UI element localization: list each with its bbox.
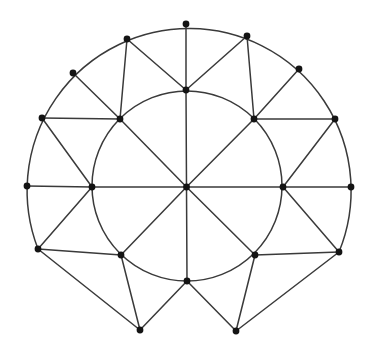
edge-I5-O8 (38, 249, 121, 255)
edge-I6-O9 (27, 186, 92, 187)
vertex-I0 (183, 87, 190, 94)
edge-I7-O10 (42, 118, 120, 119)
edge-I1-O1 (247, 36, 254, 119)
edge-C-I7 (120, 119, 187, 187)
vertex-O0 (183, 21, 190, 28)
vertex-I7 (117, 116, 124, 123)
vertex-O11 (70, 70, 77, 77)
edges-group (27, 24, 351, 331)
vertex-C (183, 184, 190, 191)
vertex-B0 (137, 327, 144, 334)
edge-I4-B0 (140, 281, 187, 330)
vertex-I4 (184, 278, 191, 285)
edge-C-I0 (186, 90, 187, 187)
edge-I0-O1 (186, 36, 247, 90)
vertex-I3 (252, 252, 259, 259)
edge-I1-O2 (254, 69, 299, 119)
vertex-O5 (336, 249, 343, 256)
vertex-O8 (35, 246, 42, 253)
vertex-O4 (348, 184, 355, 191)
vertex-O12 (124, 36, 131, 43)
vertex-I1 (251, 116, 258, 123)
edge-C-I3 (187, 187, 256, 255)
edge-C-I4 (187, 187, 188, 281)
edge-I2-O3 (283, 119, 335, 187)
vertex-I2 (280, 184, 287, 191)
vertex-I6 (89, 184, 96, 191)
vertex-O3 (332, 116, 339, 123)
edge-C-I5 (121, 187, 187, 255)
edge-I7-O11 (73, 73, 120, 119)
edge-I4-B1 (187, 281, 236, 331)
edge-I3-O5 (255, 252, 339, 255)
vertex-O1 (244, 33, 251, 40)
edge-I0-O12 (127, 39, 186, 90)
vertex-O10 (39, 115, 46, 122)
vertex-I5 (118, 252, 125, 259)
edge-I6-O8 (38, 187, 92, 249)
graph-diagram (0, 0, 371, 354)
edge-O8-B0 (38, 249, 140, 330)
outer-arc (27, 29, 351, 252)
vertex-O9 (24, 183, 31, 190)
edge-I2-O5 (283, 187, 339, 252)
edge-I6-O10 (42, 118, 92, 187)
vertex-O2 (296, 66, 303, 73)
edge-C-I1 (187, 119, 255, 187)
vertex-B1 (233, 328, 240, 335)
edge-I7-O12 (120, 39, 127, 119)
edge-O5-B1 (236, 252, 339, 331)
nodes-group (24, 21, 355, 335)
